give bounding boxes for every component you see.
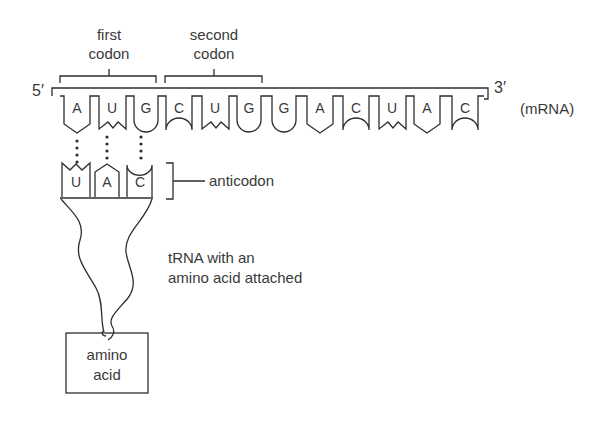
- mrna-nucleotide-c: C: [337, 96, 373, 130]
- svg-text:G: G: [244, 100, 255, 116]
- mrna-strand: A U G C U G G: [60, 96, 484, 133]
- five-prime-label: 5′: [32, 82, 44, 99]
- anticodon-nucleotide-a: A: [95, 164, 119, 197]
- svg-text:A: A: [72, 100, 82, 116]
- base-pair-dots: [75, 135, 142, 163]
- mrna-nucleotide-g: G: [267, 96, 302, 132]
- mrna-nucleotide-u: U: [95, 96, 130, 129]
- svg-text:C: C: [460, 100, 470, 116]
- trna-body: [61, 199, 152, 340]
- svg-text:A: A: [422, 100, 432, 116]
- mrna-nucleotide-u: U: [196, 96, 232, 129]
- svg-text:G: G: [279, 100, 290, 116]
- mrna-nucleotide-a: A: [60, 96, 95, 133]
- svg-text:C: C: [135, 174, 145, 190]
- three-prime-label: 3′: [494, 79, 506, 96]
- mrna-nucleotide-u: U: [373, 96, 410, 129]
- svg-text:G: G: [141, 100, 152, 116]
- first-codon-label-line2: codon: [89, 45, 130, 62]
- svg-text:C: C: [174, 100, 184, 116]
- anticodon-label: anticodon: [209, 172, 274, 189]
- svg-text:A: A: [102, 174, 112, 190]
- anticodon: U A C: [60, 163, 153, 198]
- amino-acid-label-line1: amino: [87, 346, 128, 363]
- anticodon-bracket: [166, 163, 205, 199]
- mrna-backbone: [52, 88, 488, 99]
- mrna-nucleotide-g: G: [130, 96, 160, 132]
- trna-label-line1: tRNA with an: [168, 249, 255, 266]
- trna-label-line2: amino acid attached: [168, 269, 302, 286]
- mrna-nucleotide-a: A: [410, 96, 446, 133]
- svg-text:U: U: [107, 100, 117, 116]
- anticodon-nucleotide-u: U: [62, 163, 90, 197]
- trna-diagram: first codon second codon 5′ 3′ (mRNA) A …: [0, 0, 615, 424]
- mrna-nucleotide-g: G: [232, 96, 267, 132]
- svg-text:U: U: [210, 100, 220, 116]
- first-codon-bracket: [60, 69, 156, 83]
- svg-text:A: A: [315, 100, 325, 116]
- anticodon-nucleotide-c: C: [127, 165, 152, 197]
- second-codon-bracket: [165, 69, 262, 83]
- second-codon-label-line1: second: [190, 26, 238, 43]
- amino-acid-box: amino acid: [66, 333, 148, 393]
- svg-text:U: U: [71, 174, 81, 190]
- second-codon-label-line2: codon: [194, 45, 235, 62]
- mrna-nucleotide-a: A: [302, 96, 337, 133]
- amino-acid-label-line2: acid: [93, 366, 121, 383]
- mrna-label: (mRNA): [520, 100, 574, 117]
- svg-text:U: U: [387, 100, 397, 116]
- svg-text:C: C: [351, 100, 361, 116]
- first-codon-label-line1: first: [97, 26, 122, 43]
- mrna-nucleotide-c: C: [160, 96, 196, 130]
- mrna-nucleotide-c: C: [446, 96, 484, 130]
